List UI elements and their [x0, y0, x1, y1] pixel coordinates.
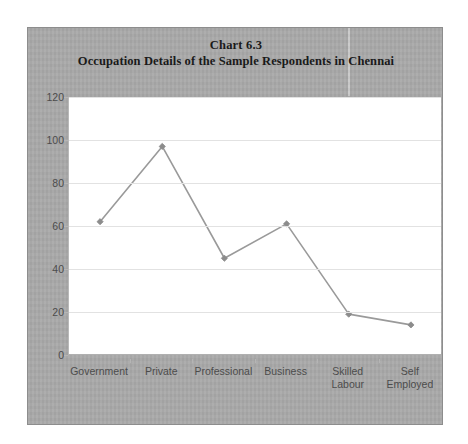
y-axis-tick-label: 60: [30, 220, 64, 232]
x-axis-tick-mark: [379, 359, 380, 363]
x-axis-tick-label: Government: [70, 365, 128, 378]
y-axis-tick-label: 120: [30, 91, 64, 103]
chart-figure: Chart 6.3 Occupation Details of the Samp…: [27, 27, 443, 425]
y-axis-tick-label: 80: [30, 177, 64, 189]
chart-title-line1: Chart 6.3: [28, 37, 443, 53]
x-axis-tick-mark: [130, 359, 131, 363]
gridline: [69, 97, 441, 98]
y-axis-tick-label: 0: [30, 349, 64, 361]
scanned-page: Chart 6.3 Occupation Details of the Samp…: [0, 0, 468, 444]
series-line: [100, 146, 411, 324]
gridline: [69, 183, 441, 184]
x-axis-tick-mark: [192, 359, 193, 363]
data-point-marker: [221, 255, 227, 261]
y-axis-tick-label: 100: [30, 134, 64, 146]
chart-title: Chart 6.3 Occupation Details of the Samp…: [28, 37, 443, 70]
chart-title-line2: Occupation Details of the Sample Respond…: [28, 53, 443, 69]
y-axis-tick-label: 40: [30, 263, 64, 275]
gridline: [69, 226, 441, 227]
plot-area: [68, 97, 441, 355]
x-axis-tick-label: Private: [145, 365, 178, 378]
gridline: [69, 312, 441, 313]
y-axis-tick-mark: [64, 355, 68, 356]
gridline: [69, 269, 441, 270]
x-axis-tick-mark: [317, 359, 318, 363]
x-axis-tick-mark: [255, 359, 256, 363]
x-axis: GovernmentPrivateProfessionalBusinessSki…: [68, 359, 441, 409]
x-axis-tick-label: Skilled Labour: [331, 365, 364, 391]
x-axis-tick-label: Professional: [195, 365, 253, 378]
y-axis-tick-label: 20: [30, 306, 64, 318]
gridline: [69, 140, 441, 141]
x-axis-tick-label: Self Employed: [387, 365, 434, 391]
data-point-marker: [408, 322, 414, 328]
x-axis-tick-label: Business: [264, 365, 307, 378]
